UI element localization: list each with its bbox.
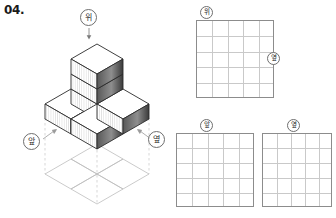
grid-side-view[interactable] xyxy=(262,133,332,207)
grid-line-h xyxy=(263,178,331,179)
grid-line-h xyxy=(177,193,253,194)
grid-line-v xyxy=(208,134,209,206)
badge-side-view: 옆 xyxy=(148,131,165,148)
grid-line-h xyxy=(197,67,273,68)
grid-line-h xyxy=(197,83,273,84)
grid-line-v xyxy=(212,21,213,97)
grid-label-side-on-top-view: 옆 xyxy=(267,52,280,65)
grid-label-front-view: 앞 xyxy=(200,119,213,132)
grid-line-h xyxy=(263,193,331,194)
grid-line-h xyxy=(177,148,253,149)
grid-line-h xyxy=(263,148,331,149)
grid-line-h xyxy=(177,178,253,179)
grid-line-v xyxy=(319,134,320,206)
worksheet-page: 04. xyxy=(0,0,336,218)
grid-line-v xyxy=(192,134,193,206)
grid-line-v xyxy=(243,21,244,97)
grid-line-h xyxy=(177,163,253,164)
grid-line-h xyxy=(197,52,273,53)
grid-line-v xyxy=(228,21,229,97)
badge-top-view: 위 xyxy=(80,9,97,26)
grid-line-h xyxy=(197,36,273,37)
grid-label-side-view: 옆 xyxy=(287,119,300,132)
down-arrow-icon xyxy=(87,28,92,40)
grid-line-v xyxy=(259,21,260,97)
badge-front-view: 앞 xyxy=(23,133,40,150)
grid-line-v xyxy=(277,134,278,206)
grid-line-v xyxy=(239,134,240,206)
grid-line-v xyxy=(291,134,292,206)
grid-front-view[interactable] xyxy=(176,133,254,207)
grid-label-top-view: 위 xyxy=(200,6,213,19)
grid-line-h xyxy=(263,163,331,164)
grid-line-v xyxy=(305,134,306,206)
grid-top-view[interactable] xyxy=(196,20,274,98)
grid-line-v xyxy=(223,134,224,206)
